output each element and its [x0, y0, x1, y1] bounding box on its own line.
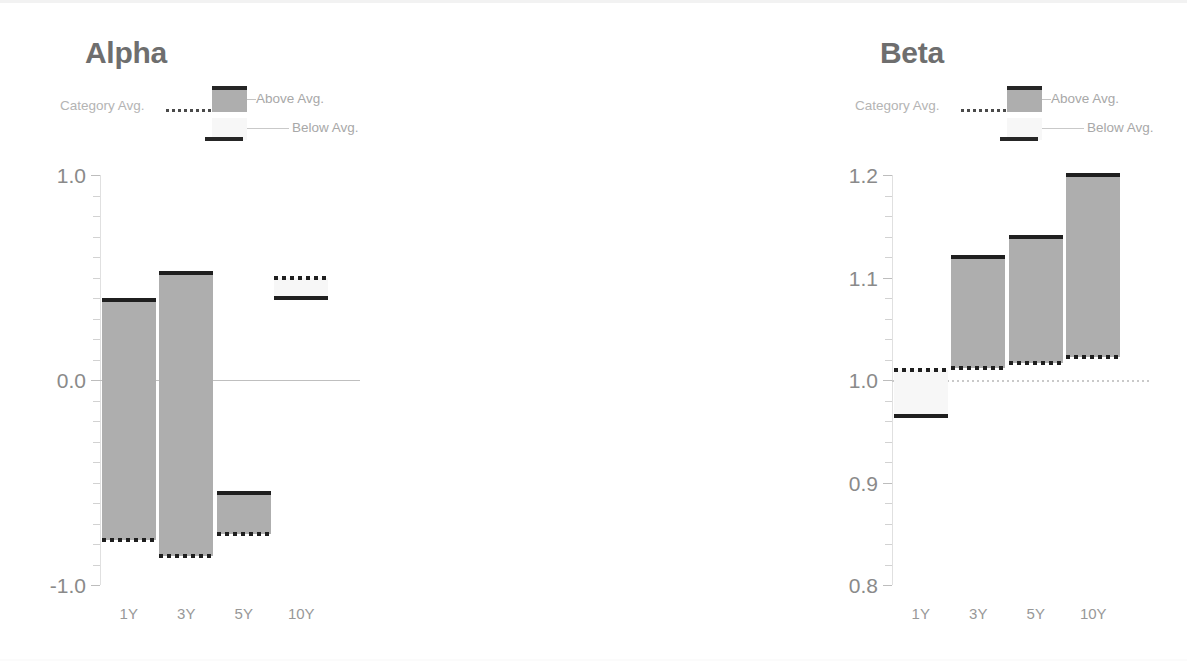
value-line [102, 298, 156, 302]
legend-leader-above-icon [247, 99, 256, 100]
x-axis-label: 5Y [235, 605, 253, 622]
y-axis-tick [93, 360, 100, 361]
chart-title-alpha: Alpha [85, 38, 167, 68]
y-axis-tick [93, 216, 100, 217]
legend-leader-below-icon [247, 128, 289, 129]
x-axis-label: 10Y [288, 605, 315, 622]
metric-bar[interactable] [102, 300, 156, 540]
legend-value-line-icon [205, 137, 243, 141]
value-line [159, 271, 213, 275]
value-line [217, 491, 271, 495]
chart-panel-beta: Beta Category Avg. Above Avg. Below Avg.… [395, 0, 790, 661]
y-axis-tick [93, 196, 100, 197]
y-axis-tick [93, 503, 100, 504]
category-average-line [159, 554, 213, 558]
y-axis-tick [93, 421, 100, 422]
x-axis-label: 3Y [177, 605, 195, 622]
y-axis-tick [93, 483, 100, 484]
value-line [274, 296, 328, 300]
x-axis-label: 1Y [120, 605, 138, 622]
y-axis-label: -1.0 [50, 575, 86, 596]
y-axis-tick [93, 442, 100, 443]
y-axis-tick-major [91, 380, 100, 381]
y-axis-tick [93, 237, 100, 238]
y-axis-tick [93, 257, 100, 258]
y-axis-tick [93, 544, 100, 545]
chart-panel-sharpe-ratio: Sharpe Ratio Category Avg. Above Avg. Be… [790, 0, 1187, 661]
chart-panels: Alpha Category Avg. Above Avg. Below Avg… [0, 0, 1187, 661]
y-axis-tick [93, 524, 100, 525]
legend-alpha: Category Avg. Above Avg. Below Avg. [60, 78, 360, 158]
y-axis-tick [93, 319, 100, 320]
legend-label-above-avg: Above Avg. [256, 91, 324, 106]
y-axis-tick [93, 462, 100, 463]
y-axis-label: 0.0 [57, 370, 86, 391]
y-axis-label: 1.0 [57, 165, 86, 186]
legend-swatch-above-avg-icon [212, 86, 247, 112]
y-axis-tick [93, 565, 100, 566]
plot-area-alpha: 1.00.0-1.01Y3Y5Y10Y [100, 175, 330, 585]
y-axis-tick-major [91, 585, 100, 586]
metric-bar[interactable] [159, 273, 213, 556]
chart-panel-alpha: Alpha Category Avg. Above Avg. Below Avg… [0, 0, 395, 661]
y-axis-tick [93, 339, 100, 340]
category-average-line [274, 276, 328, 280]
y-axis-tick [93, 278, 100, 279]
y-axis-tick [93, 298, 100, 299]
y-axis-tick [93, 401, 100, 402]
metric-bar[interactable] [274, 278, 328, 299]
category-average-line [102, 538, 156, 542]
y-axis-tick-major [91, 175, 100, 176]
metric-bar[interactable] [217, 493, 271, 534]
legend-label-below-avg: Below Avg. [292, 120, 359, 135]
category-average-line [217, 532, 271, 536]
legend-label-category-avg: Category Avg. [60, 98, 145, 113]
